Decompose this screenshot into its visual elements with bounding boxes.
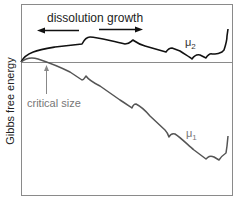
y-axis-label: Gibbs free energy [4,57,16,145]
dissolution-arrow-icon [37,28,79,34]
growth-arrow-icon [99,27,143,33]
mu1-label: μ1 [186,127,197,142]
gibbs-energy-diagram: Gibbs free energy dissolution growth μ2 … [0,0,237,203]
mu2-curve [21,29,228,62]
critical-size-label: critical size [27,97,81,109]
dissolution-growth-label: dissolution growth [47,11,143,25]
critical-size-arrow-icon [44,65,49,94]
mu1-curve [21,58,228,160]
mu2-label: μ2 [185,36,196,51]
